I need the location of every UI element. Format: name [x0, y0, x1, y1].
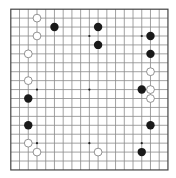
black-stone[interactable] — [24, 94, 32, 102]
white-stone[interactable] — [24, 77, 32, 85]
black-stone[interactable] — [146, 50, 154, 58]
black-stone[interactable] — [94, 41, 102, 49]
star-point — [88, 142, 90, 144]
star-point — [36, 88, 38, 90]
white-stone[interactable] — [94, 148, 102, 156]
white-stone[interactable] — [33, 32, 41, 40]
black-stone[interactable] — [24, 121, 32, 129]
black-stone[interactable] — [94, 23, 102, 31]
black-stone[interactable] — [146, 32, 154, 40]
star-point — [141, 142, 143, 144]
white-stone[interactable] — [33, 14, 41, 22]
white-stone[interactable] — [147, 86, 155, 94]
white-stone[interactable] — [24, 139, 32, 147]
white-stone[interactable] — [147, 68, 155, 76]
black-stone[interactable] — [138, 148, 146, 156]
black-stone[interactable] — [50, 23, 58, 31]
go-board[interactable] — [0, 0, 176, 178]
black-stone[interactable] — [146, 121, 154, 129]
star-point — [88, 35, 90, 37]
star-point — [88, 88, 90, 90]
white-stone[interactable] — [33, 148, 41, 156]
white-stone[interactable] — [147, 95, 155, 103]
black-stone[interactable] — [138, 85, 146, 93]
star-point — [36, 142, 38, 144]
star-point — [141, 35, 143, 37]
white-stone[interactable] — [24, 50, 32, 58]
